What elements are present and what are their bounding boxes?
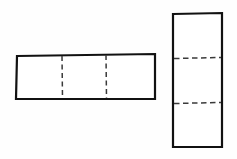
drawing-canvas (0, 0, 237, 159)
side-view-outline (173, 13, 222, 147)
technical-drawing (0, 0, 237, 159)
front-view (16, 54, 155, 99)
side-view (173, 13, 222, 147)
front-view-outline (16, 54, 155, 99)
